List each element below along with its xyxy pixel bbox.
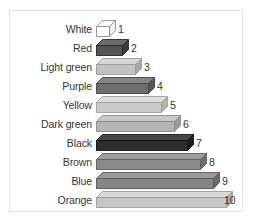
rod-label-yellow: Yellow (10, 96, 92, 115)
rod-graphic-light-green (96, 58, 143, 77)
rod-number-dark-green: 6 (183, 115, 189, 134)
rod-row: Blue 9 (10, 172, 242, 191)
rod-front-face (97, 141, 188, 151)
rod-row: White 1 (10, 20, 242, 39)
rod-label-black: Black (10, 134, 92, 153)
rod-row: Red 2 (10, 39, 242, 58)
rod-top-face (97, 173, 220, 179)
rod-graphic-purple (96, 77, 156, 96)
rod-front-face (97, 179, 214, 189)
rod-shape (96, 20, 117, 38)
rod-row: Black 7 (10, 134, 242, 153)
rod-top-face (97, 154, 207, 160)
rod-front-face (97, 46, 123, 56)
rod-shape (96, 96, 169, 114)
rod-number-black: 7 (196, 134, 202, 153)
rod-top-face (97, 97, 168, 103)
rod-front-face (97, 198, 227, 208)
rod-shape (96, 153, 208, 171)
rod-front-face (97, 84, 149, 94)
rod-graphic-blue (96, 172, 221, 191)
rod-label-red: Red (10, 39, 92, 58)
rod-shape (96, 134, 195, 152)
rod-row: Orange 10 (10, 191, 242, 210)
rod-graphic-yellow (96, 96, 169, 115)
rod-number-light-green: 3 (144, 58, 150, 77)
rod-front-face (97, 122, 175, 132)
rod-front-face (97, 160, 201, 170)
rod-shape (96, 77, 156, 95)
rod-graphic-brown (96, 153, 208, 172)
rod-top-face (97, 192, 233, 198)
rod-shape (96, 191, 234, 209)
rod-front-face (97, 65, 136, 75)
rod-row: Yellow 5 (10, 96, 242, 115)
rod-row: Purple 4 (10, 77, 242, 96)
rod-number-orange: 10 (224, 191, 236, 210)
rod-number-blue: 9 (222, 172, 228, 191)
rod-label-purple: Purple (10, 77, 92, 96)
rod-number-red: 2 (131, 39, 137, 58)
rod-graphic-orange (96, 191, 234, 210)
rod-shape (96, 39, 130, 57)
rod-graphic-black (96, 134, 195, 153)
rod-front-face (97, 27, 110, 37)
rod-graphic-red (96, 39, 130, 58)
rod-label-light-green: Light green (10, 58, 92, 77)
rod-row: Brown 8 (10, 153, 242, 172)
rod-front-face (97, 103, 162, 113)
rod-number-purple: 4 (157, 77, 163, 96)
rod-label-orange: Orange (10, 191, 92, 210)
rod-top-face (97, 59, 142, 65)
rod-top-face (97, 78, 155, 84)
rod-shape (96, 58, 143, 76)
rod-label-dark-green: Dark green (10, 115, 92, 134)
rod-label-brown: Brown (10, 153, 92, 172)
rod-number-yellow: 5 (170, 96, 176, 115)
rod-number-white: 1 (118, 20, 124, 39)
rod-shape (96, 172, 221, 190)
rod-label-blue: Blue (10, 172, 92, 191)
rod-number-brown: 8 (209, 153, 215, 172)
rod-row: Light green 3 (10, 58, 242, 77)
rod-graphic-white (96, 20, 117, 39)
rod-top-face (97, 116, 181, 122)
rod-label-white: White (10, 20, 92, 39)
rod-row: Dark green 6 (10, 115, 242, 134)
rod-shape (96, 115, 182, 133)
rod-top-face (97, 135, 194, 141)
cuisenaire-rod-chart: White 1 Red 2 Light green 3 Purple 4 Yel… (9, 10, 243, 212)
rod-graphic-dark-green (96, 115, 182, 134)
